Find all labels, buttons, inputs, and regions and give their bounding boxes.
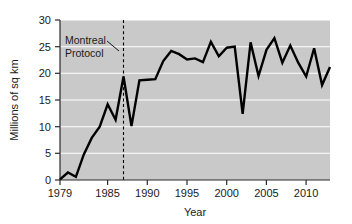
- y-axis-title: Millions of sq km: [8, 59, 20, 140]
- x-tick-label-2000: 2000: [214, 187, 238, 199]
- x-tick-label-1979: 1979: [48, 187, 72, 199]
- x-tick-label-1985: 1985: [95, 187, 119, 199]
- x-tick-label-1995: 1995: [175, 187, 199, 199]
- x-tick-label-1990: 1990: [135, 187, 159, 199]
- y-tick-labels: 30 25 20 15 10 5 0: [39, 14, 51, 186]
- chart-svg: 30 25 20 15 10 5 0 1979 1985 1990 1995 2…: [0, 0, 352, 224]
- y-tick-label-0: 0: [45, 174, 51, 186]
- annotation-label-line-1: Montreal: [65, 34, 106, 46]
- x-tick-label-2010: 2010: [294, 187, 318, 199]
- x-tick-marks: [60, 180, 306, 185]
- y-tick-marks: [55, 20, 60, 180]
- y-tick-label-30: 30: [39, 14, 51, 26]
- x-axis-title: Year: [184, 206, 207, 218]
- y-tick-label-10: 10: [39, 121, 51, 133]
- ozone-hole-area-chart: 30 25 20 15 10 5 0 1979 1985 1990 1995 2…: [0, 0, 352, 224]
- y-tick-label-15: 15: [39, 94, 51, 106]
- x-tick-labels: 1979 1985 1990 1995 2000 2005 2010: [48, 187, 319, 199]
- annotation-label-line-2: Protocol: [65, 47, 104, 59]
- x-tick-label-2005: 2005: [254, 187, 278, 199]
- y-tick-label-25: 25: [39, 41, 51, 53]
- y-tick-label-5: 5: [45, 147, 51, 159]
- y-tick-label-20: 20: [39, 67, 51, 79]
